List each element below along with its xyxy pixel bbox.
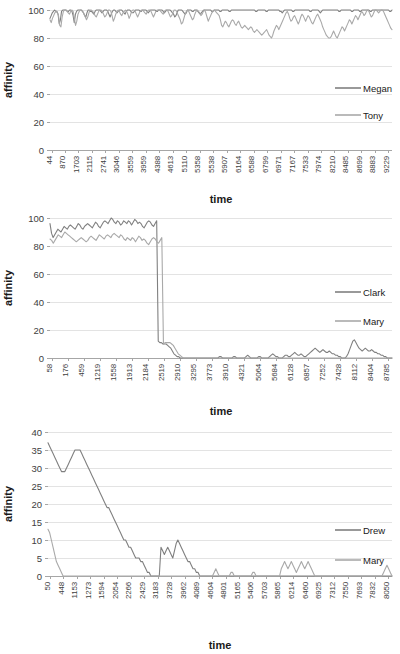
y-tick-label: 40 — [33, 297, 44, 308]
x-tick-label: 2429 — [138, 581, 147, 599]
x-tick-label: 8485 — [341, 155, 350, 173]
x-tick-label: 2184 — [141, 363, 150, 381]
x-tick-label: 5907 — [220, 155, 229, 173]
figure-page: 020406080100affinity44870170321152741304… — [0, 0, 400, 654]
y-tick-label: 5 — [37, 553, 42, 564]
series-line-mary — [48, 529, 392, 576]
x-tick-label: 3295 — [189, 363, 198, 381]
y-tick-label: 0 — [37, 571, 42, 582]
x-tick-label: 4604 — [206, 581, 215, 599]
x-tick-label: 8785 — [382, 363, 391, 381]
x-tick-label: 2519 — [157, 363, 166, 381]
y-tick-label: 35 — [31, 445, 42, 456]
x-tick-label: 2115 — [85, 155, 94, 172]
x-tick-label: 7832 — [368, 581, 377, 599]
x-tick-label: 7252 — [318, 363, 327, 381]
x-tick-label: 8883 — [368, 155, 377, 173]
y-tick-label: 40 — [33, 89, 44, 100]
legend-label-drew: Drew — [363, 525, 385, 536]
chart-svg: 020406080100affinity44870170321152741304… — [0, 0, 400, 208]
x-tick-label: 4321 — [237, 363, 246, 381]
x-tick-label: 50 — [43, 581, 52, 590]
x-tick-label: 6460 — [301, 581, 310, 599]
y-tick-label: 30 — [31, 463, 42, 474]
y-tick-label: 60 — [33, 269, 44, 280]
x-tick-label: 9229 — [382, 155, 391, 173]
x-tick-label: 7550 — [341, 581, 350, 599]
x-tick-label: 4801 — [219, 581, 228, 599]
chart-svg: 020406080100affinity58176459121915581913… — [0, 208, 400, 420]
legend-label-megan: Megan — [363, 83, 392, 94]
y-tick-label: 20 — [31, 499, 42, 510]
x-tick-label: 5358 — [193, 155, 202, 173]
x-tick-label: 7974 — [314, 155, 323, 173]
x-tick-label: 2054 — [111, 581, 120, 599]
x-tick-label: 3910 — [221, 363, 230, 381]
x-tick-label: 7312 — [328, 581, 337, 599]
x-tick-label: 8210 — [328, 155, 337, 173]
y-tick-label: 0 — [39, 145, 44, 156]
x-tick-label: 44 — [45, 155, 54, 164]
x-tick-label: 1703 — [72, 155, 81, 173]
x-tick-label: 5538 — [207, 155, 216, 173]
y-axis-title: affinity — [2, 269, 14, 306]
chart-panel-drew-mary: 0510152025303540affinity5044811531273159… — [0, 420, 400, 654]
x-tick-label: 176 — [61, 363, 70, 376]
legend-label-tony: Tony — [363, 110, 383, 121]
x-tick-label: 4388 — [153, 155, 162, 173]
x-tick-label: 6128 — [286, 363, 295, 381]
x-tick-label: 1153 — [70, 581, 79, 598]
x-tick-label: 8699 — [355, 155, 364, 173]
chart-panel-clark-mary: 020406080100affinity58176459121915581913… — [0, 208, 400, 420]
x-tick-label: 8404 — [366, 363, 375, 381]
x-tick-label: 6857 — [302, 363, 311, 381]
x-tick-label: 5110 — [180, 155, 189, 172]
chart-panel-megan-tony: 020406080100affinity44870170321152741304… — [0, 0, 400, 208]
x-tick-label: 1219 — [93, 363, 102, 381]
x-tick-label: 459 — [77, 363, 86, 376]
x-tick-label: 3773 — [205, 363, 214, 381]
x-tick-label: 5406 — [246, 581, 255, 599]
legend-label-clark: Clark — [363, 287, 385, 298]
x-tick-label: 58 — [45, 363, 54, 372]
y-tick-label: 20 — [33, 117, 44, 128]
x-tick-label: 2741 — [99, 155, 108, 173]
y-axis-title: affinity — [2, 61, 14, 98]
x-tick-label: 6799 — [261, 155, 270, 173]
x-tick-label: 3959 — [139, 155, 148, 173]
x-tick-label: 5684 — [270, 363, 279, 381]
y-tick-label: 100 — [28, 5, 44, 16]
x-tick-label: 5064 — [254, 363, 263, 381]
x-tick-label: 6214 — [287, 581, 296, 599]
x-tick-label: 7533 — [301, 155, 310, 173]
chart-svg: 0510152025303540affinity5044811531273159… — [0, 420, 400, 654]
x-tick-label: 870 — [58, 155, 67, 168]
x-tick-label: 6971 — [274, 155, 283, 173]
y-tick-label: 0 — [39, 353, 44, 364]
series-line-clark — [50, 218, 392, 358]
x-tick-label: 7167 — [288, 155, 297, 173]
y-tick-label: 15 — [31, 517, 42, 528]
x-tick-label: 3962 — [179, 581, 188, 599]
x-tick-label: 1913 — [125, 363, 134, 381]
y-tick-label: 40 — [31, 427, 42, 438]
series-line-drew — [48, 443, 392, 576]
x-tick-label: 1273 — [84, 581, 93, 599]
legend-label-mary: Mary — [363, 555, 384, 566]
y-tick-label: 100 — [28, 213, 44, 224]
x-tick-label: 3728 — [165, 581, 174, 599]
legend-label-mary: Mary — [363, 316, 384, 327]
x-tick-label: 5703 — [260, 581, 269, 599]
x-tick-label: 7428 — [334, 363, 343, 381]
x-tick-label: 1558 — [109, 363, 118, 381]
series-line-mary — [50, 232, 392, 358]
x-axis-title: time — [210, 193, 233, 205]
x-axis-title: time — [210, 405, 233, 417]
y-tick-label: 10 — [31, 535, 42, 546]
x-axis-title: time — [209, 639, 232, 651]
y-tick-label: 60 — [33, 61, 44, 72]
x-tick-label: 4613 — [166, 155, 175, 173]
x-tick-label: 6925 — [314, 581, 323, 599]
x-tick-label: 448 — [57, 581, 66, 594]
x-tick-label: 1594 — [97, 581, 106, 599]
